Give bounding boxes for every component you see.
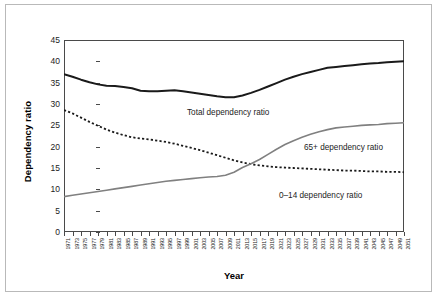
x-tick-label: 1973 [75,238,80,250]
x-tick-label: 2037 [347,238,352,250]
x-tick-label: 2041 [364,238,369,250]
x-tick-label: 2009 [228,238,233,250]
y-tick-label: 20 [51,142,60,151]
x-tick-label: 2011 [236,238,241,249]
x-tick-mark [319,232,320,236]
x-tick-label: 2049 [398,238,403,250]
x-tick-label: 2043 [372,238,377,250]
x-tick-label: 2023 [287,238,292,250]
y-tick-label: 45 [51,36,60,45]
x-tick-label: 2027 [304,238,309,250]
x-tick-mark [243,232,244,236]
y-axis-title: Dependency ratio [22,67,33,217]
x-tick-mark [81,232,82,236]
x-tick-mark [311,232,312,236]
x-tick-mark [336,232,337,236]
x-tick-mark [285,232,286,236]
x-tick-mark [158,232,159,236]
y-axis-ticklabels: 051015202530354045 [36,40,60,232]
x-tick-mark [166,232,167,236]
x-tick-mark [277,232,278,236]
x-tick-mark [396,232,397,236]
x-tick-mark [175,232,176,236]
x-tick-mark [115,232,116,236]
x-tick-mark [107,232,108,236]
x-tick-mark [200,232,201,236]
x-tick-label: 2029 [313,238,318,250]
x-tick-mark [328,232,329,236]
x-tick-label: 2035 [338,238,343,250]
x-tick-mark [294,232,295,236]
x-tick-mark [234,232,235,236]
x-tick-label: 1995 [168,238,173,250]
x-tick-mark [183,232,184,236]
series-annotation-0-14: 0–14 dependency ratio [279,192,362,200]
x-tick-label: 1999 [185,238,190,250]
x-tick-label: 2015 [253,238,258,250]
x-tick-label: 1985 [126,238,131,250]
x-tick-mark [209,232,210,236]
x-tick-mark [345,232,346,236]
x-tick-label: 1993 [160,238,165,250]
x-tick-label: 1989 [143,238,148,250]
x-tick-label: 2051 [406,238,411,250]
x-tick-mark [124,232,125,236]
x-tick-mark [404,232,405,236]
y-tick-label: 30 [51,100,60,109]
x-tick-mark [370,232,371,236]
x-tick-mark [260,232,261,236]
x-tick-label: 2017 [262,238,267,250]
figure-container: Dependency ratio 051015202530354045 Tota… [0,0,437,307]
series-annotation-total: Total dependency ratio [187,109,269,117]
x-tick-label: 2045 [381,238,386,250]
chart-series-svg [64,40,404,232]
y-tick-label: 5 [55,206,60,215]
x-tick-label: 1979 [100,238,105,250]
x-tick-label: 1991 [151,238,156,250]
x-tick-mark [141,232,142,236]
x-axis-title: Year [64,270,404,281]
y-tick-label: 15 [51,164,60,173]
x-tick-label: 1971 [66,238,71,250]
plot-area: Total dependency ratio 65+ dependency ra… [64,40,404,232]
x-tick-label: 2019 [270,238,275,250]
x-axis-ticklabels: 1971197319751977197919811983198519871989… [64,238,404,268]
y-tick-label: 40 [51,57,60,66]
x-tick-mark [90,232,91,236]
x-tick-mark [149,232,150,236]
x-tick-label: 2031 [321,238,326,250]
series-line-total-dependency-ratio [64,61,404,97]
x-tick-mark [268,232,269,236]
x-tick-label: 2003 [202,238,207,250]
series-annotation-65plus: 65+ dependency ratio [304,144,383,152]
y-tick-label: 35 [51,78,60,87]
x-tick-mark [379,232,380,236]
x-tick-mark [132,232,133,236]
x-tick-label: 2021 [279,238,284,250]
y-tick-label: 0 [55,228,60,237]
x-tick-mark [302,232,303,236]
x-tick-label: 2001 [194,238,199,250]
y-tick-label: 10 [51,185,60,194]
x-tick-label: 2025 [296,238,301,250]
x-tick-mark [192,232,193,236]
x-tick-label: 2007 [219,238,224,250]
y-tick-label: 25 [51,121,60,130]
x-tick-label: 1975 [83,238,88,250]
x-tick-mark [226,232,227,236]
series-line-0-14-dependency-ratio [64,110,404,172]
x-tick-mark [73,232,74,236]
x-tick-label: 1983 [117,238,122,250]
x-tick-mark [353,232,354,236]
x-tick-label: 1987 [134,238,139,250]
x-tick-label: 2039 [355,238,360,250]
x-tick-mark [251,232,252,236]
x-tick-label: 1981 [109,238,114,250]
x-tick-label: 2033 [330,238,335,250]
x-tick-mark [64,232,65,236]
x-tick-mark [98,232,99,236]
x-tick-mark [362,232,363,236]
x-tick-mark [387,232,388,236]
x-tick-label: 2005 [211,238,216,250]
x-tick-label: 1997 [177,238,182,250]
